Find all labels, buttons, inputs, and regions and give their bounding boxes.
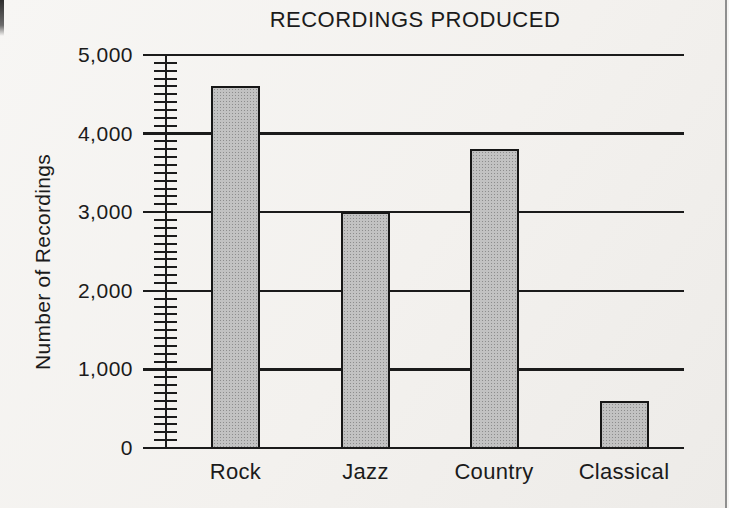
x-label-rock: Rock bbox=[166, 459, 306, 485]
gridline-5000 bbox=[143, 54, 685, 57]
bar-jazz bbox=[341, 212, 390, 448]
x-label-classical: Classical bbox=[554, 459, 694, 485]
y-axis-line bbox=[165, 55, 168, 448]
y-tick-label-2000: 2,000 bbox=[53, 280, 133, 302]
y-tick-label-4000: 4,000 bbox=[53, 123, 133, 145]
bar-classical bbox=[600, 401, 649, 448]
x-label-jazz: Jazz bbox=[296, 459, 436, 485]
y-tick-label-3000: 3,000 bbox=[53, 201, 133, 223]
y-tick-label-0: 0 bbox=[53, 437, 133, 459]
y-tick-label-5000: 5,000 bbox=[53, 44, 133, 66]
scanned-page: RECORDINGS PRODUCED Number of Recordings… bbox=[0, 0, 729, 508]
bar-country bbox=[470, 149, 519, 448]
x-axis-line bbox=[143, 447, 685, 450]
y-tick-label-1000: 1,000 bbox=[53, 358, 133, 380]
bar-rock bbox=[211, 86, 260, 448]
x-label-country: Country bbox=[424, 459, 564, 485]
plot-area: 01,0002,0003,0004,0005,000RockJazzCountr… bbox=[0, 0, 729, 508]
